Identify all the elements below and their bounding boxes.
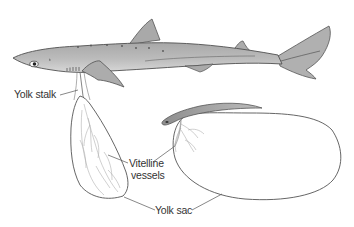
adult-shark [13,19,330,87]
diagram-canvas: Yolk stalk Vitelline vessels Yolk sac [0,0,354,227]
yolk-sac-left [71,96,128,198]
shark-embryo-illustration [0,0,354,227]
yolk-sac-label: Yolk sac [155,204,192,216]
vitelline-vessels-label-line1: Vitelline [129,157,164,169]
embryo-with-yolk-sac [162,103,341,199]
yolk-stalk-label: Yolk stalk [14,88,56,100]
vitelline-vessels-label-line2: vessels [131,169,165,181]
